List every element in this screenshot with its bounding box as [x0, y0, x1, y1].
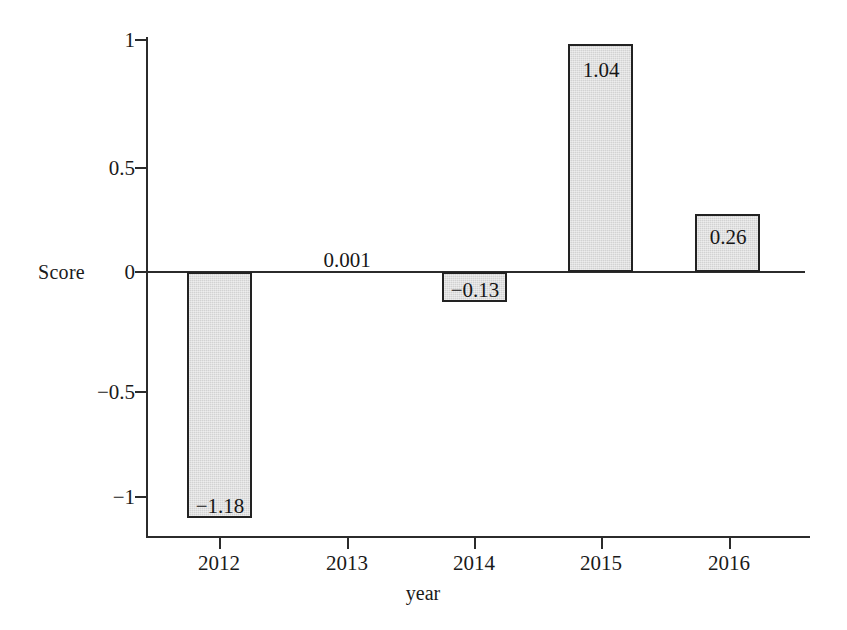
y-tick-mark [135, 496, 147, 498]
bar-value-2013: 0.001 [287, 250, 407, 271]
x-tick-mark [219, 538, 221, 549]
y-tick-label: 0.5 [39, 158, 135, 179]
y-tick-label: −1 [39, 487, 135, 508]
y-tick-label: −0.5 [39, 382, 135, 403]
x-tick-mark [347, 538, 349, 549]
x-tick-label-2015: 2015 [541, 553, 661, 574]
bar-2012[interactable] [187, 272, 252, 518]
x-tick-mark [729, 538, 731, 549]
x-tick-label-2016: 2016 [669, 553, 789, 574]
x-tick-label-2014: 2014 [414, 553, 534, 574]
x-tick-label-2013: 2013 [287, 553, 407, 574]
y-axis-line [146, 37, 148, 537]
y-tick-mark [135, 271, 147, 273]
x-axis-baseline [146, 536, 810, 538]
x-axis-title: year [406, 583, 440, 603]
bar-value-2016: 0.26 [668, 227, 788, 248]
bar-chart: Score 1 0.5 0 −0.5 −1 2012 2013 2014 201… [0, 0, 847, 630]
x-tick-mark [601, 538, 603, 549]
y-tick-mark [135, 391, 147, 393]
y-tick-mark [135, 167, 147, 169]
x-tick-label-2012: 2012 [159, 553, 279, 574]
bar-value-2012: −1.18 [160, 496, 280, 517]
bar-value-2014: −0.13 [415, 280, 535, 301]
bar-value-2015: 1.04 [541, 60, 661, 81]
y-tick-label: 0 [39, 262, 135, 283]
y-tick-label: 1 [39, 30, 135, 51]
y-tick-mark [135, 39, 147, 41]
x-tick-mark [474, 538, 476, 549]
